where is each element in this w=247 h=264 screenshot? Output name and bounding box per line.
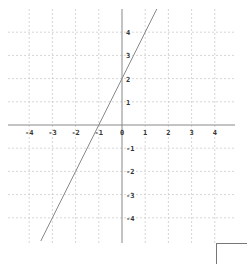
tick-labels: -4-3-2-101234-4-3-2-11234 (25, 29, 217, 223)
corner-widget (216, 243, 247, 264)
x-tick-label: 2 (166, 129, 170, 137)
x-tick-label: 1 (143, 129, 147, 137)
y-tick-label: 1 (126, 99, 130, 107)
y-tick-label: -4 (126, 215, 134, 223)
x-tick-label: -2 (71, 129, 79, 137)
y-tick-label: 4 (126, 29, 130, 37)
y-tick-label: -2 (126, 168, 134, 176)
y-tick-label: 3 (126, 52, 130, 60)
x-tick-label: -4 (25, 129, 33, 137)
y-tick-label: -1 (126, 145, 134, 153)
y-tick-label: -3 (126, 192, 134, 200)
y-tick-label: 2 (126, 76, 130, 84)
x-tick-label: 4 (213, 129, 217, 137)
x-tick-label: -3 (48, 129, 56, 137)
axes (8, 9, 235, 243)
x-tick-label: 3 (189, 129, 193, 137)
x-tick-label: 0 (120, 129, 124, 137)
